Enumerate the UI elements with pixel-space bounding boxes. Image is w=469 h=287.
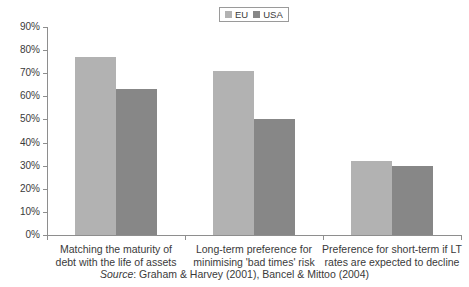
y-axis-tick: 70% [43, 73, 47, 74]
x-axis-tick [185, 235, 186, 240]
y-axis-tick-label: 50% [20, 113, 40, 124]
x-axis-tick [323, 235, 324, 240]
legend-swatch-usa [253, 11, 260, 18]
source-note: Source: Graham & Harvey (2001), Bancel &… [0, 268, 469, 281]
bar-group [213, 27, 295, 235]
bar-group [351, 27, 433, 235]
legend-label-usa: USA [263, 10, 283, 20]
y-axis-tick: 20% [43, 189, 47, 190]
x-axis-line [47, 235, 461, 236]
category-label-line: rates are expected to decline [310, 256, 469, 269]
category-label-line: Preference for short-term if LT [310, 243, 469, 256]
y-axis-tick-label: 60% [20, 90, 40, 101]
y-axis-tick-label: 90% [20, 21, 40, 32]
bar-chart: EU USA 0%10%20%30%40%50%60%70%80%90% Mat… [0, 0, 469, 287]
y-axis-tick: 30% [43, 166, 47, 167]
legend-swatch-eu [225, 11, 232, 18]
y-axis-tick: 40% [43, 143, 47, 144]
chart-legend: EU USA [219, 7, 289, 22]
source-text: : Graham & Harvey (2001), Bancel & Mitto… [133, 268, 369, 280]
legend-label-eu: EU [235, 10, 248, 20]
legend-item-eu: EU [225, 10, 248, 20]
category-label: Preference for short-term if LTrates are… [310, 243, 469, 268]
bar-eu [75, 57, 116, 235]
y-axis-tick-label: 30% [20, 160, 40, 171]
y-axis-tick: 60% [43, 96, 47, 97]
bar-eu [351, 161, 392, 235]
bar-usa [116, 89, 157, 235]
y-axis-tick: 10% [43, 212, 47, 213]
y-axis-line [47, 27, 48, 236]
y-axis-tick-label: 40% [20, 137, 40, 148]
y-axis-tick: 50% [43, 119, 47, 120]
source-prefix: Source [100, 268, 133, 280]
bar-usa [392, 166, 433, 235]
bar-usa [254, 119, 295, 235]
x-axis-tick [47, 235, 48, 240]
y-axis-tick: 90% [43, 27, 47, 28]
plot-area: 0%10%20%30%40%50%60%70%80%90% [47, 27, 461, 236]
y-axis-tick-label: 70% [20, 67, 40, 78]
bar-group [75, 27, 157, 235]
legend-item-usa: USA [253, 10, 283, 20]
y-axis-tick-label: 0% [26, 229, 40, 240]
y-axis-tick-label: 80% [20, 44, 40, 55]
y-axis-tick-label: 10% [20, 206, 40, 217]
y-axis-tick-label: 20% [20, 183, 40, 194]
x-axis-tick [461, 235, 462, 240]
bar-eu [213, 71, 254, 235]
y-axis-tick: 80% [43, 50, 47, 51]
